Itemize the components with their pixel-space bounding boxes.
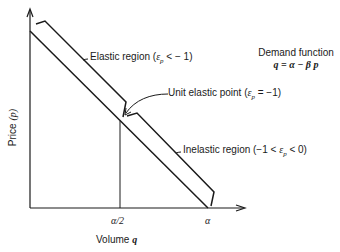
x-label-text: Volume [96,234,129,245]
x-tick-alpha: α [205,216,210,226]
inelastic-region-label: Inelastic region (−1 < εp < 0) [183,145,307,158]
demand-equation: q = α − β p [254,60,338,70]
x-tick-half-alpha: α/2 [111,216,124,226]
y-label-text: Price [7,123,18,146]
inelastic-bracket-tick [176,152,181,153]
inelastic-text: Inelastic region (−1 < [183,144,279,155]
inelastic-region-bracket [127,113,214,206]
elastic-region-label: Elastic region (εp < − 1) [90,52,193,65]
x-axis-label: Volume q [96,235,137,245]
y-label-var: (p) [7,109,18,121]
unit-text: Unit elastic point ( [168,87,247,98]
unit-elastic-label: Unit elastic point (εp = −1) [168,88,281,101]
x-label-var: q [132,234,137,245]
demand-diagram-canvas [0,0,340,252]
demand-function-title: Demand function [254,48,338,58]
unit-tail: = −1) [255,87,281,98]
inelastic-tail: < 0) [287,144,307,155]
elastic-tail: < − 1) [164,51,193,62]
elastic-region-bracket [36,21,126,117]
unit-elastic-pointer [126,94,168,113]
y-axis-label: Price (p) [7,109,18,146]
unit-elastic-arrow-icon [125,108,131,115]
elastic-text: Elastic region ( [90,51,156,62]
